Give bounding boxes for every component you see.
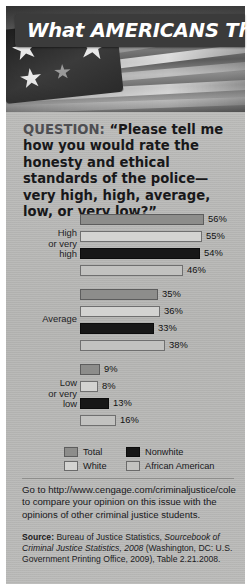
bar-value: 16%	[120, 414, 139, 426]
bar-africanamerican	[80, 340, 165, 351]
legend-item-nonwhite: Nonwhite	[126, 447, 183, 457]
bar-white	[80, 231, 202, 242]
bar-chart: High or very high 56% 55% 54%	[6, 210, 245, 432]
bar-group-average: Average 35% 36% 33% 38%	[6, 285, 245, 357]
legend-swatch-white-icon	[64, 461, 78, 471]
title-banner: What AMERICANS Think	[15, 14, 245, 47]
bar-value: 13%	[113, 397, 132, 409]
legend-swatch-nonwhite-icon	[126, 447, 140, 457]
question-label: QUESTION:	[23, 122, 105, 137]
legend-label-african-american: African American	[145, 461, 214, 471]
chart-legend: Total Nonwhite White African American	[64, 445, 244, 473]
legend-item-total: Total	[64, 447, 126, 457]
source-part1: Bureau of Justice Statistics,	[54, 532, 164, 542]
legend-label-total: Total	[83, 447, 102, 457]
bar-value: 55%	[206, 230, 225, 242]
title-word-think: Think	[219, 19, 245, 42]
bar-nonwhite	[80, 248, 200, 259]
bar-white	[80, 306, 160, 317]
legend-label-nonwhite: Nonwhite	[145, 447, 183, 457]
bar-group-low: Low or very low 9% 8% 13%	[6, 360, 245, 432]
source-label: Source:	[22, 532, 54, 542]
bar-value: 33%	[158, 322, 177, 334]
bar-value: 35%	[162, 288, 181, 300]
bar-africanamerican	[80, 415, 116, 426]
category-label-high: High or very high	[6, 228, 77, 260]
category-label-average: Average	[6, 314, 77, 325]
legend-item-white: White	[64, 461, 126, 471]
bar-total	[80, 214, 204, 225]
legend-swatch-total-icon	[64, 447, 78, 457]
category-label-low: Low or very low	[6, 378, 77, 410]
bar-value: 54%	[204, 247, 223, 259]
bar-value: 46%	[187, 264, 206, 276]
what-americans-think-figure: What AMERICANS Think QUESTION: “Please t…	[0, 0, 245, 584]
bar-nonwhite	[80, 398, 109, 409]
bar-total	[80, 364, 100, 375]
divider	[22, 478, 234, 479]
bar-value: 38%	[169, 339, 188, 351]
bar-value: 9%	[104, 363, 118, 375]
promo-text: Go to http://www.cengage.com/criminaljus…	[22, 484, 238, 521]
legend-swatch-african-american-icon	[126, 461, 140, 471]
bar-total	[80, 289, 158, 300]
question-text: QUESTION: “Please tell me how you would …	[23, 122, 233, 220]
title-word-americans: AMERICANS	[91, 19, 219, 42]
legend-row: White African American	[64, 459, 244, 473]
bar-group-high: High or very high 56% 55% 54%	[6, 210, 245, 282]
page-title: What AMERICANS Think	[15, 19, 245, 42]
bar-nonwhite	[80, 323, 154, 334]
bar-value: 56%	[208, 213, 227, 225]
legend-item-african-american: African American	[126, 461, 214, 471]
content-panel: QUESTION: “Please tell me how you would …	[6, 112, 245, 584]
bar-africanamerican	[80, 265, 183, 276]
title-word-what: What	[27, 19, 91, 42]
bar-white	[80, 381, 98, 392]
legend-row: Total Nonwhite	[64, 445, 244, 459]
bar-value: 36%	[164, 305, 183, 317]
source-note: Source: Bureau of Justice Statistics, So…	[22, 532, 240, 566]
legend-label-white: White	[83, 461, 107, 471]
bar-value: 8%	[102, 380, 116, 392]
